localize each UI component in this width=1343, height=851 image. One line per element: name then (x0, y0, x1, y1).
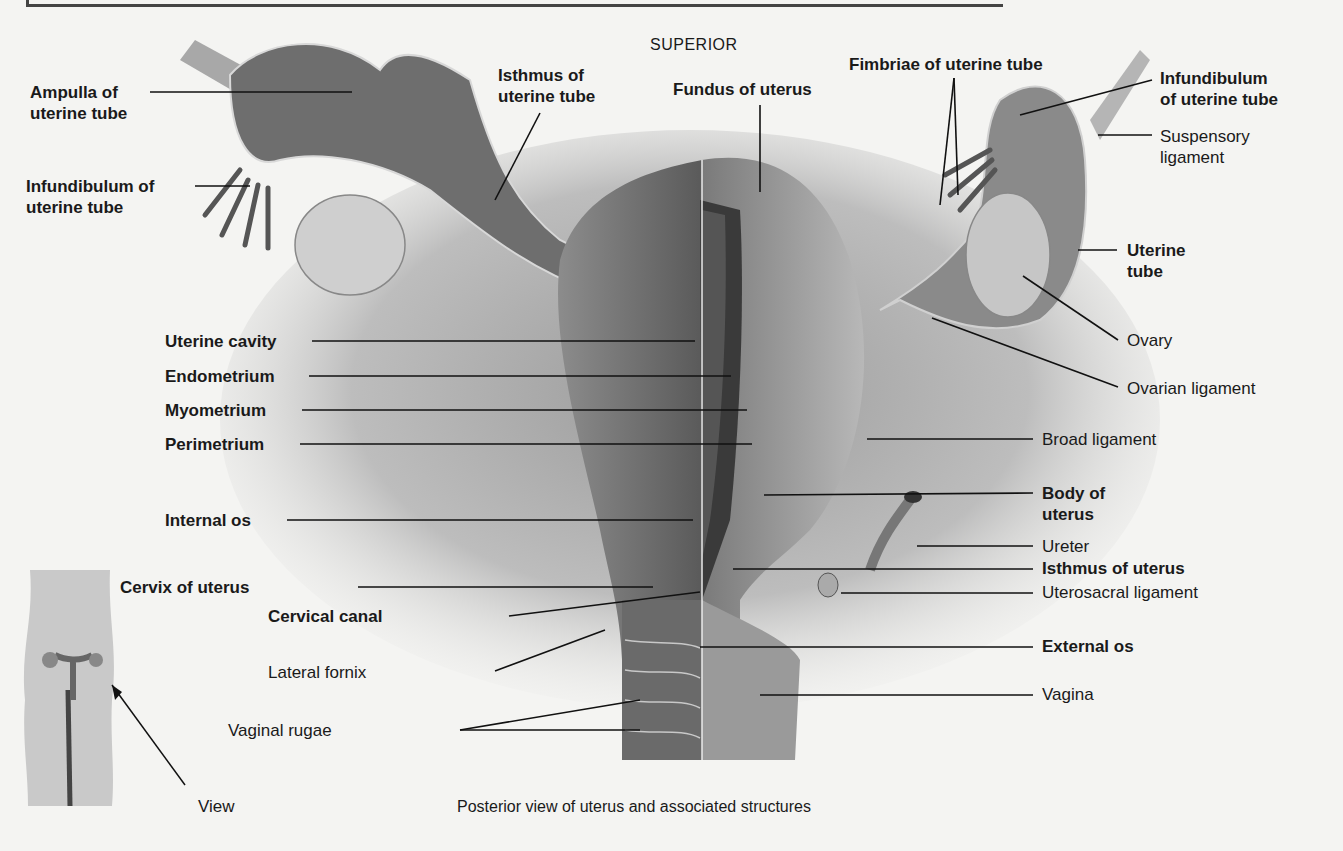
left-ovary-shape (295, 195, 405, 295)
inset-view-label: View (198, 796, 235, 817)
uterus-illustration (0, 0, 1343, 851)
label-body-uterus: Body ofuterus (1042, 483, 1105, 525)
orientation-label: SUPERIOR (650, 34, 738, 55)
label-infundibulum-left: Infundibulum ofuterine tube (26, 176, 154, 218)
label-uterine-cavity: Uterine cavity (165, 331, 277, 352)
label-ampulla: Ampulla ofuterine tube (30, 82, 127, 124)
label-ovarian-ligament: Ovarian ligament (1127, 378, 1256, 399)
label-uterosacral-ligament: Uterosacral ligament (1042, 582, 1198, 603)
right-ovary-shape (966, 193, 1050, 317)
label-infundibulum-right: Infundibulumof uterine tube (1160, 68, 1278, 110)
label-ovary: Ovary (1127, 330, 1172, 351)
label-fundus: Fundus of uterus (673, 79, 812, 100)
inset-body-figure (24, 570, 185, 806)
vagina-section-shape (622, 600, 702, 760)
label-cervical-canal: Cervical canal (268, 606, 382, 627)
label-internal-os: Internal os (165, 510, 251, 531)
label-vagina: Vagina (1042, 684, 1094, 705)
label-isthmus-tube: Isthmus ofuterine tube (498, 65, 595, 107)
label-suspensory-ligament: Suspensoryligament (1160, 126, 1250, 168)
label-perimetrium: Perimetrium (165, 434, 264, 455)
label-myometrium: Myometrium (165, 400, 266, 421)
label-uterine-tube: Uterinetube (1127, 240, 1186, 282)
label-lateral-fornix: Lateral fornix (268, 662, 366, 683)
label-external-os: External os (1042, 636, 1134, 657)
figure-caption: Posterior view of uterus and associated … (457, 796, 811, 817)
label-cervix: Cervix of uterus (120, 577, 249, 598)
label-broad-ligament: Broad ligament (1042, 429, 1156, 450)
label-endometrium: Endometrium (165, 366, 275, 387)
label-vaginal-rugae: Vaginal rugae (228, 720, 332, 741)
label-ureter: Ureter (1042, 536, 1089, 557)
uterosacral-ligament-shape (818, 573, 838, 597)
label-isthmus-uterus: Isthmus of uterus (1042, 558, 1185, 579)
label-fimbriae: Fimbriae of uterine tube (849, 54, 1043, 75)
